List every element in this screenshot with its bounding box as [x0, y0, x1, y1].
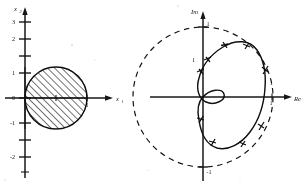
right-im-axis-label: Im — [190, 8, 198, 15]
svg-text:1: 1 — [121, 99, 123, 104]
left-y-tick-label-neg2: -2 — [10, 153, 15, 160]
right-im-tick-label-pos1: 1 — [207, 20, 210, 27]
left-y-tick-label-3: 3 — [12, 18, 15, 25]
left-y-tick-label-2: 2 — [12, 35, 15, 42]
left-x-tick-label-1: 1 — [86, 101, 89, 108]
right-re-tick-label-1: 1 — [270, 99, 273, 106]
right-im-tick-label-neg1: -1 — [207, 168, 212, 175]
curve-label-b: 1 — [270, 79, 273, 86]
left-y-tick-label-neg1: -1 — [10, 119, 15, 126]
svg-text:x: x — [115, 95, 119, 102]
figure-root: 3 2 1 0 -1 -2 1 x 2 x 1 — [0, 0, 301, 185]
left-y-tick-label-1: 1 — [12, 69, 15, 76]
right-re-axis-label: Re — [293, 95, 301, 102]
left-y-tick-label-0: 0 — [12, 94, 15, 101]
curve-label-a: 1 — [192, 56, 195, 63]
svg-text:x: x — [13, 5, 17, 12]
